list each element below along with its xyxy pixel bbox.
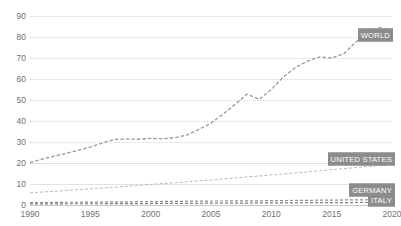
series-paths (30, 16, 392, 205)
y-axis-tick-label: 10 (0, 179, 26, 189)
x-axis-tick-label: 2020 (383, 209, 401, 219)
y-axis-tick-label: 30 (0, 137, 26, 147)
y-axis-tick-label: 70 (0, 53, 26, 63)
series-line-italy (30, 202, 392, 204)
series-label-united-states: UNITED STATES (328, 153, 395, 166)
series-label-world: WORLD (358, 28, 393, 41)
y-axis-tick-label: 20 (0, 158, 26, 168)
series-line-world (30, 28, 392, 163)
x-axis-tick-label: 2005 (202, 209, 221, 219)
y-axis-tick-label: 60 (0, 74, 26, 84)
series-line-united-states (30, 164, 392, 192)
x-axis-tick-label: 1995 (81, 209, 100, 219)
y-axis-tick-label: 90 (0, 11, 26, 21)
y-axis-tick-label: 40 (0, 116, 26, 126)
x-axis-tick-label: 2000 (141, 209, 160, 219)
series-label-italy: ITALY (368, 193, 395, 206)
x-axis-tick-label: 2015 (322, 209, 341, 219)
x-axis-line (30, 205, 392, 206)
x-axis-tick-label: 1990 (21, 209, 40, 219)
x-axis-tick-label: 2010 (262, 209, 281, 219)
line-chart: 0102030405060708090 19901995200020052010… (0, 0, 401, 226)
y-axis-tick-label: 50 (0, 95, 26, 105)
y-axis-tick-label: 80 (0, 32, 26, 42)
